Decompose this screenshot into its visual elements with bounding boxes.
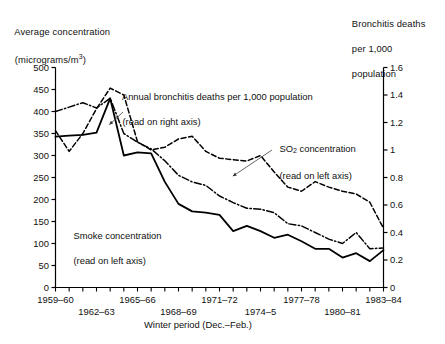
y2-axis-tick-label: 0.4 (390, 227, 403, 238)
axis-tick-labels: 05010015020025030035040045050000.20.40.6… (33, 62, 403, 317)
y-axis-tick-label: 150 (33, 216, 49, 227)
y-axis-tick-label: 0 (44, 282, 49, 293)
y2-axis-tick-label: 0.6 (390, 199, 403, 210)
y2-axis-tick-label: 0 (390, 282, 395, 293)
x-axis-tick-label: 1971–72 (201, 294, 238, 305)
series-line-smoke (56, 98, 384, 261)
x-axis-tick-label: 1977–78 (283, 294, 320, 305)
y-axis-tick-label: 300 (33, 150, 49, 161)
x-axis-tick-label: 1962–63 (78, 306, 115, 317)
x-axis-tick-label: 1983–84 (365, 294, 402, 305)
data-series (56, 88, 384, 261)
x-axis-tick-label: 1965–66 (119, 294, 156, 305)
y2-axis-tick-label: 0.8 (390, 172, 403, 183)
x-axis-tick-label: 1980–81 (324, 306, 361, 317)
y2-axis-tick-label: 1.2 (390, 117, 403, 128)
y-axis-tick-label: 50 (39, 260, 49, 271)
y2-axis-tick-label: 1 (390, 144, 395, 155)
y-axis-tick-label: 500 (33, 62, 49, 73)
y-axis-tick-label: 350 (33, 128, 49, 139)
axes (56, 68, 384, 288)
x-axis-tick-label: 1968–69 (160, 306, 197, 317)
chart-plot-area: 05010015020025030035040045050000.20.40.6… (0, 0, 445, 344)
series-line-so2 (56, 98, 384, 248)
x-axis-tick-label: 1959–60 (37, 294, 74, 305)
x-axis-tick-label: 1974–5 (245, 306, 276, 317)
y-axis-tick-label: 400 (33, 106, 49, 117)
y-axis-tick-label: 200 (33, 194, 49, 205)
y-axis-tick-label: 250 (33, 172, 49, 183)
chart-container: Average concentration (micrograms/m3) Br… (0, 0, 445, 344)
y-axis-tick-label: 450 (33, 84, 49, 95)
y2-axis-tick-label: 1.4 (390, 89, 403, 100)
series-line-bronchitis (56, 88, 384, 228)
y-axis-tick-label: 100 (33, 238, 49, 249)
annotation-leader-lines (110, 112, 273, 176)
y2-axis-tick-label: 1.6 (390, 62, 403, 73)
y2-axis-tick-label: 0.2 (390, 254, 403, 265)
